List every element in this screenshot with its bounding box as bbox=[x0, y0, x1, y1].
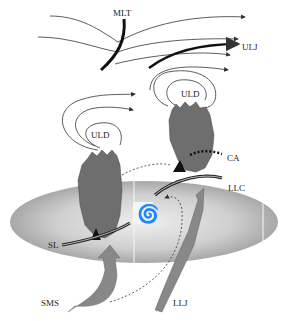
label-uld-left: ULD bbox=[91, 130, 110, 140]
label-llj: LLJ bbox=[173, 298, 188, 308]
dashed-trajectory bbox=[122, 164, 170, 175]
upper-streamlines bbox=[38, 16, 245, 90]
cyclone-icon: 🌀 bbox=[137, 203, 159, 224]
label-ca: CA bbox=[227, 153, 240, 163]
ulj-jet-arrow bbox=[149, 44, 238, 68]
uld-left-outflow bbox=[62, 94, 135, 150]
cloud-right bbox=[169, 102, 214, 172]
label-ulj: ULJ bbox=[242, 42, 258, 52]
label-uld-right: ULD bbox=[181, 89, 200, 99]
label-mlt: MLT bbox=[113, 8, 131, 18]
label-llc: LLC bbox=[228, 183, 245, 193]
label-sl: SL bbox=[48, 240, 59, 250]
label-sms: SMS bbox=[41, 298, 59, 308]
